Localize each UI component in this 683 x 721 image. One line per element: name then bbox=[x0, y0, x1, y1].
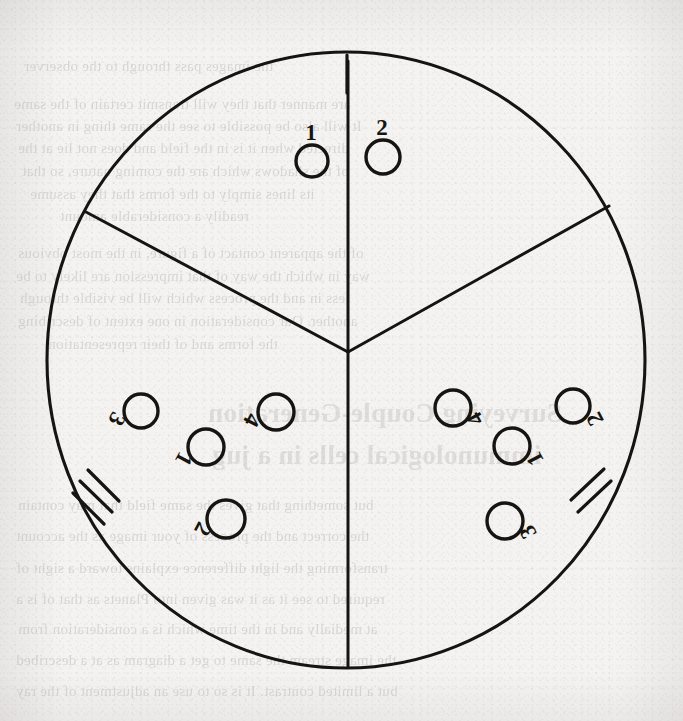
node-lower-left-sector-1: 1 bbox=[170, 429, 224, 470]
node-label: 3 bbox=[103, 408, 130, 430]
node-label: 4 bbox=[238, 409, 266, 431]
node-lower-left-sector-4: 4 bbox=[238, 394, 294, 431]
nodes-group: 1234124213 bbox=[103, 115, 609, 543]
tick-right-2 bbox=[578, 481, 611, 512]
node-circle bbox=[366, 140, 400, 174]
node-label: 2 bbox=[581, 408, 608, 430]
figure-root: the images pass through to the observera… bbox=[0, 0, 683, 721]
divider-lower-left bbox=[86, 212, 348, 352]
node-label: 4 bbox=[461, 408, 489, 430]
sector-lower-right-sector: 4213 bbox=[435, 389, 609, 543]
node-label: 3 bbox=[514, 521, 541, 543]
node-lower-right-sector-4: 4 bbox=[435, 390, 489, 430]
node-label: 1 bbox=[521, 448, 548, 470]
node-circle bbox=[556, 389, 590, 423]
node-lower-right-sector-3: 3 bbox=[487, 503, 542, 543]
node-top-sector-1: 1 bbox=[296, 120, 328, 177]
sector-lower-left-sector: 3412 bbox=[103, 394, 294, 540]
node-lower-right-sector-1: 1 bbox=[494, 428, 549, 470]
sector-diagram: 1234124213 bbox=[0, 0, 683, 721]
circle-outline-group bbox=[47, 52, 645, 668]
tick-right-1 bbox=[571, 469, 604, 500]
divider-lower-right bbox=[348, 206, 609, 352]
circle-outline bbox=[47, 52, 645, 668]
sector-dividers-group bbox=[86, 61, 609, 667]
node-circle bbox=[296, 145, 328, 177]
node-label: 2 bbox=[189, 518, 216, 540]
node-label: 1 bbox=[305, 120, 317, 145]
node-lower-right-sector-2: 2 bbox=[556, 389, 609, 430]
node-top-sector-2: 2 bbox=[366, 115, 400, 174]
tick-left-1 bbox=[88, 470, 119, 501]
node-label: 2 bbox=[376, 115, 388, 140]
node-lower-left-sector-2: 2 bbox=[189, 500, 245, 540]
node-label: 1 bbox=[170, 448, 197, 470]
node-lower-left-sector-3: 3 bbox=[103, 394, 158, 430]
